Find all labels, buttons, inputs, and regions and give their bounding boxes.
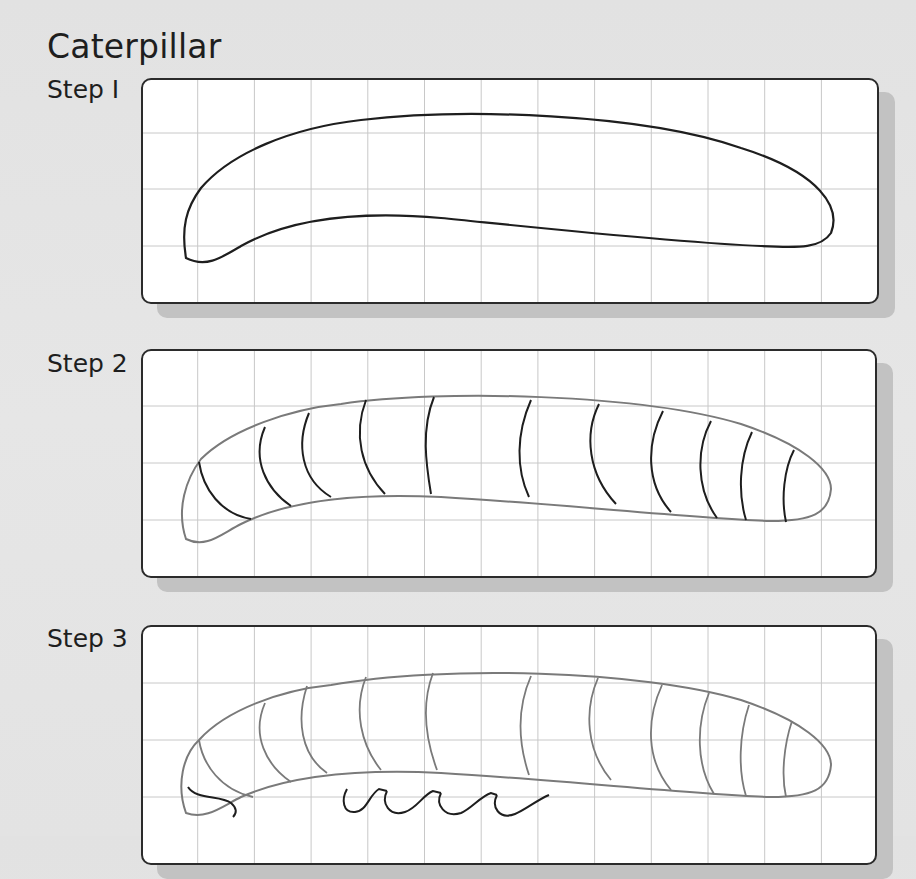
step-3-drawing	[141, 625, 877, 865]
legs	[188, 787, 549, 817]
step-3-drawing-area	[141, 625, 877, 865]
step-2-drawing-area	[141, 349, 877, 578]
step-1-label: Step I	[47, 77, 119, 102]
grid-lines	[141, 349, 877, 578]
caterpillar-body-outline	[181, 673, 831, 815]
leg-1	[344, 789, 387, 812]
page-title: Caterpillar	[47, 30, 222, 63]
caterpillar-body-outline	[184, 114, 833, 262]
grid-lines	[141, 625, 877, 865]
step-2-label: Step 2	[47, 351, 128, 376]
step-1-drawing	[141, 78, 879, 304]
leg-2	[385, 791, 441, 813]
step-1-drawing-area	[141, 78, 879, 304]
step-3-panel	[141, 625, 877, 865]
step-2-drawing	[141, 349, 877, 578]
leg-4	[495, 795, 549, 816]
grid-lines	[141, 78, 879, 304]
leg-3	[439, 793, 497, 814]
step-3-label: Step 3	[47, 626, 128, 651]
step-2-panel	[141, 349, 877, 578]
step-1-panel	[141, 78, 879, 304]
